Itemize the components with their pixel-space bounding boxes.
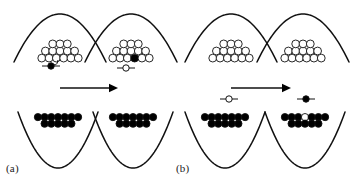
group-a <box>14 14 177 168</box>
particle-open <box>127 40 135 48</box>
particle-open <box>314 47 322 55</box>
transition-arrow-a <box>60 84 118 92</box>
particle-open <box>216 54 224 62</box>
particle-open <box>127 47 135 55</box>
particle-cluster <box>34 114 81 128</box>
particle-filled <box>136 120 143 127</box>
particle-filled <box>109 114 116 121</box>
particle-filled <box>48 120 55 127</box>
particle-open <box>242 47 250 55</box>
panel-b-top-left <box>185 14 277 62</box>
transition-arrow-b <box>231 84 291 92</box>
particle-open <box>134 47 142 55</box>
particle-filled <box>150 114 157 121</box>
particle-cluster <box>281 40 325 62</box>
particle-cluster <box>109 114 156 128</box>
particle-open <box>292 40 300 48</box>
particle-open <box>231 54 239 62</box>
marker-dot-filled <box>48 63 54 69</box>
particle-open <box>227 47 235 55</box>
particle-open <box>49 47 57 55</box>
particle-open <box>109 54 117 62</box>
particle-filled <box>221 120 228 127</box>
particle-filled <box>61 120 68 127</box>
particle-filled <box>281 114 288 121</box>
particle-open <box>213 47 221 55</box>
particle-filled <box>242 114 249 121</box>
particle-open <box>120 40 128 48</box>
particle-open <box>56 40 64 48</box>
particle-cluster <box>209 40 253 62</box>
particle-open <box>63 47 71 55</box>
particle-open <box>234 47 242 55</box>
particle-open <box>38 54 46 62</box>
panel-b-bottom-right <box>265 96 345 168</box>
particle-open <box>123 54 131 62</box>
panel-a-bottom-left <box>18 112 98 168</box>
particle-filled <box>75 114 82 121</box>
particle-filled <box>116 120 123 127</box>
particle-open <box>113 47 121 55</box>
marker-dot-filled <box>303 96 309 102</box>
particle-filled <box>315 120 322 127</box>
particle-open <box>134 40 142 48</box>
particle-filled <box>129 120 136 127</box>
arrow-head <box>109 84 118 92</box>
panel-b-top-right <box>257 14 349 62</box>
particle-open <box>42 47 50 55</box>
particle-open <box>234 40 242 48</box>
particle-filled <box>123 120 130 127</box>
tracer-particle-marker <box>297 96 315 102</box>
panel-label-b: (b) <box>176 162 189 174</box>
particle-filled <box>131 54 139 62</box>
particle-cluster <box>201 114 248 128</box>
particle-cluster <box>109 40 153 62</box>
particle-open <box>306 47 314 55</box>
particle-open <box>71 47 79 55</box>
particle-cluster <box>281 114 328 128</box>
particle-filled <box>301 120 308 127</box>
panel-a-top-left <box>14 14 106 69</box>
particle-open <box>56 47 64 55</box>
particle-open <box>310 54 318 62</box>
particle-filled <box>41 120 48 127</box>
particle-filled <box>143 120 150 127</box>
particle-open <box>306 40 314 48</box>
particle-open <box>63 40 71 48</box>
particle-open <box>45 54 53 62</box>
tracer-particle-marker <box>220 96 238 102</box>
particle-open <box>317 54 325 62</box>
particle-open <box>52 54 60 62</box>
marker-dot-open <box>226 96 232 102</box>
particle-filled <box>322 114 329 121</box>
particle-filled <box>295 120 302 127</box>
group-b <box>185 14 349 168</box>
particle-open <box>60 54 68 62</box>
panel-label-a: (a) <box>6 162 19 174</box>
particle-open <box>245 54 253 62</box>
particle-filled <box>54 120 61 127</box>
particle-filled <box>208 120 215 127</box>
particle-open <box>74 54 82 62</box>
particle-filled <box>235 120 242 127</box>
particle-open <box>220 40 228 48</box>
particle-open <box>67 54 75 62</box>
particle-open <box>299 47 307 55</box>
particle-filled <box>68 120 75 127</box>
particle-filled <box>215 120 222 127</box>
particle-filled <box>288 120 295 127</box>
particle-open <box>138 54 146 62</box>
particle-open <box>223 54 231 62</box>
particle-open <box>227 40 235 48</box>
particle-open <box>303 54 311 62</box>
particle-open <box>299 40 307 48</box>
particle-open <box>120 47 128 55</box>
particle-filled <box>34 114 41 121</box>
particle-open <box>295 54 303 62</box>
particle-open <box>281 54 289 62</box>
marker-dot-open <box>123 65 129 71</box>
panel-a-bottom-right <box>93 112 173 168</box>
particle-filled <box>228 120 235 127</box>
particle-filled <box>201 114 208 121</box>
arrow-head <box>282 84 291 92</box>
